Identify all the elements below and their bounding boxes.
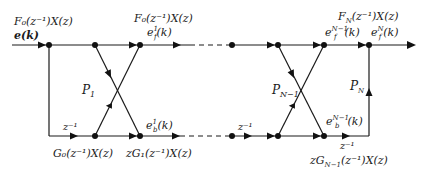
stage-1-lattice	[95, 45, 140, 136]
arrow-icon	[172, 133, 180, 140]
arrow-icon	[70, 133, 78, 140]
arrow-icon	[244, 133, 252, 140]
input-signal-label: e(k)	[14, 29, 39, 42]
stage1-top-label: F₀(z⁻¹)X(z)	[133, 12, 193, 25]
arrow-icon	[358, 42, 366, 49]
gn-1-label: zGN−1(z⁻¹)X(z)	[309, 154, 388, 169]
forward-n-1-label: eN−1f(k)	[325, 25, 360, 41]
z-inverse-left-label: z⁻¹	[62, 121, 78, 132]
input-top-label: F₀(z⁻¹)X(z)	[13, 15, 73, 28]
backward-n-1-label: eN−1b(k)	[326, 114, 363, 130]
g1-label: zG₁(z⁻¹)X(z)	[125, 147, 192, 160]
arrow-icon	[129, 133, 137, 140]
stage1-backward-label: e1b(k)	[146, 118, 173, 134]
p1-label: P1	[81, 83, 95, 99]
arrow-icon	[38, 42, 46, 49]
pn-label: PN	[349, 79, 365, 95]
backward-path	[49, 45, 373, 140]
pn-1-label: PN−1	[271, 83, 299, 99]
arrow-icon	[129, 42, 137, 49]
forward-path	[12, 41, 416, 49]
g0-label: G₀(z⁻¹)X(z)	[53, 147, 113, 160]
fn-top-label: FN(z⁻¹)X(z)	[337, 10, 399, 25]
arrow-icon	[267, 42, 275, 49]
arrow-icon	[173, 42, 181, 49]
arrow-icon	[313, 133, 321, 140]
stage1-forward-label: e1f(k)	[147, 25, 172, 41]
arrow-icon	[407, 41, 416, 49]
arrow-icon	[267, 133, 275, 140]
z-inverse-mid-label: z⁻¹	[237, 121, 253, 132]
arrow-icon	[313, 42, 321, 49]
forward-n-label: eNf(k)	[371, 25, 398, 41]
arrow-icon	[366, 88, 373, 96]
lattice-filter-diagram: F₀(z⁻¹)X(z) e(k) F₀(z⁻¹)X(z) e1f(k) P1 e…	[0, 0, 428, 171]
arrow-icon	[342, 133, 350, 140]
z-inverse-right-label: z⁻¹	[339, 140, 355, 151]
